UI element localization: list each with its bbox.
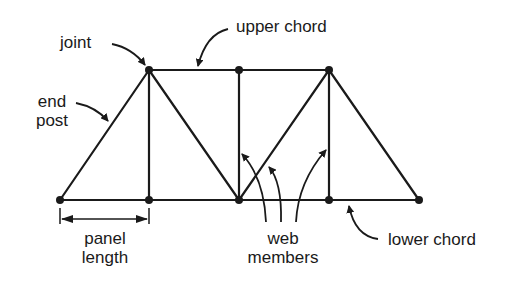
web-member-diagonal-2 <box>239 70 329 200</box>
truss-members <box>60 70 419 200</box>
web-members-label-line2: members <box>228 248 338 267</box>
end-post-label-line1: end <box>29 92 75 111</box>
end-post-arrow <box>76 103 108 121</box>
panel-length-dimension <box>60 208 149 224</box>
joint-dot <box>325 196 333 204</box>
joint-dot <box>325 66 333 74</box>
joint-dot <box>145 196 153 204</box>
panel-length-label-line2: length <box>72 248 138 267</box>
joint-dot <box>235 196 243 204</box>
end-post-label-line2: post <box>29 111 75 130</box>
web-member-arrow-3 <box>296 150 326 222</box>
joint-arrow <box>112 44 145 65</box>
annotation-arrows <box>76 29 378 239</box>
lower-chord-label: lower chord <box>388 230 476 249</box>
web-member-diagonal-1 <box>149 70 239 200</box>
end-post-left <box>60 70 149 200</box>
web-member-arrow-2 <box>269 167 281 222</box>
web-members-label: web members <box>228 229 338 267</box>
web-members-label-line1: web <box>228 229 338 248</box>
web-member-arrow-1 <box>242 154 266 222</box>
joint-dot <box>235 66 243 74</box>
end-post-label: end post <box>29 92 75 130</box>
upper-chord-arrow <box>198 29 228 66</box>
joint-dot <box>56 196 64 204</box>
end-post-right <box>329 70 419 200</box>
joint-dot <box>145 66 153 74</box>
joint-label: joint <box>60 33 91 52</box>
panel-length-label-line1: panel <box>72 229 138 248</box>
joint-dot <box>415 196 423 204</box>
upper-chord-label: upper chord <box>236 17 327 36</box>
panel-length-label: panel length <box>72 229 138 267</box>
lower-chord-arrow <box>349 206 378 239</box>
